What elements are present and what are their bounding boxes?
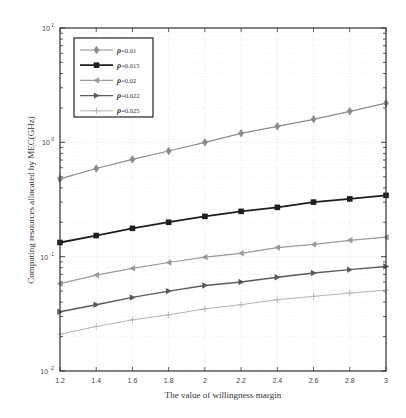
diamond-marker-icon [202,139,207,147]
square-marker-icon [202,214,208,220]
x-tick-label: 2.2 [236,377,246,384]
plus-marker-icon [238,302,244,308]
series-line [60,237,386,284]
diamond-marker-icon [239,129,244,137]
legend-label: ρ=0.015 [116,61,139,70]
x-tick-label: 1.8 [164,377,174,384]
plus-marker-icon [310,293,316,299]
x-tick-label: 2.8 [345,377,355,384]
series-5 [57,287,389,337]
series-3 [57,234,389,287]
legend-label: ρ=0.025 [116,106,139,115]
series-2 [57,193,389,246]
diamond-marker-icon [94,165,99,173]
square-marker-icon [238,209,244,215]
y-axis-label: Computing resources allocated by MEC(GHz… [26,116,36,283]
x-tick-label: 3 [384,377,388,384]
x-tick-label: 1.2 [55,377,65,384]
y-tick-label: 10 0 [42,136,54,146]
x-tick-label: 2.4 [272,377,282,384]
square-marker-icon [166,219,172,225]
diamond-marker-icon [347,107,352,115]
legend-label: ρ=0.02 [116,76,136,85]
legend: ρ=0.01ρ=0.015ρ=0.02ρ=0.022ρ=0.025 [74,38,153,117]
x-tick-label: 2.6 [309,377,319,384]
legend-label: ρ=0.022 [116,91,139,100]
plus-marker-icon [129,317,135,323]
diamond-marker-icon [275,123,280,131]
x-tick-label: 2 [203,377,207,384]
diamond-marker-icon [130,156,135,164]
square-marker-icon [130,226,136,232]
data-series [57,99,389,337]
x-tick-label: 1.4 [91,377,101,384]
square-marker-icon [311,199,317,205]
square-marker-icon [94,62,100,68]
y-tick-label: 10 1 [42,22,54,32]
square-marker-icon [275,205,281,211]
y-tick-label: 10 -2 [40,365,54,375]
x-tick-label: 1.6 [128,377,138,384]
diamond-marker-icon [166,147,171,155]
plus-marker-icon [202,306,208,312]
legend-label: ρ=0.01 [116,46,136,55]
plus-marker-icon [93,323,99,329]
line-chart: 1.21.41.61.822.22.42.62.83 10 -210 -110 … [0,0,406,418]
series-line [60,290,386,334]
x-axis-label: The value of willingness margin [165,390,282,400]
plus-marker-icon [165,312,171,318]
diamond-marker-icon [311,116,316,124]
square-marker-icon [347,196,353,202]
y-tick-label: 10 -1 [40,251,54,261]
square-marker-icon [93,233,99,239]
